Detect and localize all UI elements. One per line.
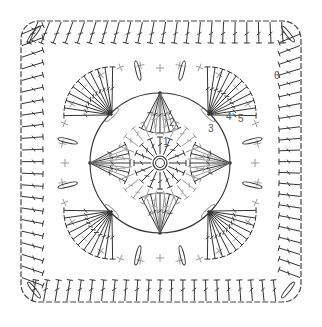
double-crochet-symbol <box>22 266 44 276</box>
double-crochet-symbol <box>50 22 61 44</box>
double-crochet-symbol <box>22 134 43 140</box>
stitch-stem <box>125 136 138 146</box>
double-crochet-symbol <box>22 35 44 46</box>
double-crochet-symbol <box>22 109 43 115</box>
stitch-top-bar <box>102 67 108 68</box>
stitch-stem <box>113 280 115 301</box>
single-crochet-symbol <box>117 64 124 71</box>
double-crochet-symbol <box>22 84 44 92</box>
stitch-top-bar <box>56 280 62 281</box>
double-crochet-symbol <box>22 159 43 165</box>
stitch-top-bar <box>90 280 96 281</box>
double-crochet-symbol <box>186 143 202 152</box>
stitch-stem <box>136 166 152 173</box>
stitch-slash <box>231 220 232 225</box>
chain-symbol <box>280 281 296 299</box>
round-label-2: 2 <box>169 117 175 128</box>
single-crochet-symbol <box>252 120 259 127</box>
stitch-stem <box>279 80 300 86</box>
stitch-top-bar <box>212 67 218 68</box>
stitch-top-bar <box>123 42 129 43</box>
double-crochet-symbol <box>146 280 152 301</box>
double-crochet-symbol <box>160 196 181 233</box>
stitch-top-bar <box>212 258 218 259</box>
stitch-top-bar <box>71 84 75 89</box>
double-crochet-symbol <box>157 172 163 189</box>
stitch-slash <box>145 176 150 177</box>
stitch-stem <box>163 171 170 187</box>
stitch-stem <box>142 93 160 128</box>
chain-symbol <box>178 60 187 80</box>
double-crochet-symbol <box>279 137 300 143</box>
stitch-top-bar <box>33 279 39 280</box>
stitch-slash <box>224 96 229 97</box>
double-crochet-symbol <box>193 142 230 163</box>
double-crochet-symbol <box>248 280 254 301</box>
stitch-stem <box>150 139 157 155</box>
double-crochet-symbol <box>111 22 119 44</box>
stitch-top-bar <box>279 126 280 132</box>
stitch-slash <box>168 213 173 214</box>
stitch-top-bar <box>81 74 86 78</box>
double-crochet-symbol <box>22 171 43 177</box>
chain-symbol <box>242 137 262 146</box>
stitch-stem <box>211 22 213 43</box>
chain-symbol <box>242 181 262 190</box>
single-crochet-symbol <box>61 120 68 127</box>
double-crochet-symbol <box>22 72 44 80</box>
stitch-stem <box>65 22 73 43</box>
chain-symbol <box>57 137 77 146</box>
stitch-stem <box>125 280 127 301</box>
stitch-stem <box>195 163 230 181</box>
chain-symbol <box>134 245 143 265</box>
single-crochet-symbol <box>61 199 68 206</box>
stitch-top-bar <box>42 97 43 103</box>
stitch-stem <box>177 128 187 141</box>
stitch-top-bar <box>43 208 44 214</box>
double-crochet-symbol <box>279 159 300 165</box>
double-crochet-symbol <box>259 280 265 301</box>
double-crochet-symbol <box>236 280 242 301</box>
stitch-stem <box>223 22 224 43</box>
double-crochet-symbol <box>278 57 300 67</box>
stitch-stem <box>206 280 207 301</box>
stitch-top-bar <box>43 121 44 127</box>
stitch-top-bar <box>234 248 239 252</box>
stitch-top-bar <box>78 280 84 281</box>
stitch-stem <box>90 145 125 163</box>
stitch-stem <box>112 211 113 259</box>
double-crochet-symbol <box>169 280 175 301</box>
chain-symbol <box>134 60 143 80</box>
stitch-top-bar <box>102 258 108 259</box>
double-crochet-symbol <box>279 169 300 175</box>
stitch-top-bar <box>71 237 75 242</box>
double-crochet-symbol <box>22 121 43 127</box>
stitch-top-bar <box>123 187 127 192</box>
stitch-stem <box>207 211 208 259</box>
stitch-stem <box>279 46 300 54</box>
stitch-slash <box>171 150 176 151</box>
double-crochet-symbol <box>22 231 44 239</box>
stitch-top-bar <box>67 280 73 281</box>
stitch-stem <box>208 210 256 211</box>
double-crochet-symbol <box>22 278 44 289</box>
stitch-stem <box>22 266 43 273</box>
stitch-stem <box>279 69 300 75</box>
stitch-top-bar <box>278 94 279 100</box>
frame-border <box>21 21 301 302</box>
double-crochet-symbol <box>139 93 160 130</box>
stitch-slash <box>226 227 227 232</box>
stitch-stem <box>133 185 143 198</box>
stitch-stem <box>239 280 240 301</box>
double-crochet-symbol <box>101 280 107 301</box>
double-crochet-symbol <box>22 60 44 69</box>
round-label-6: 6 <box>274 70 280 81</box>
stitch-top-bar <box>259 280 265 281</box>
stitch-top-bar <box>184 126 189 130</box>
stitch-stem <box>22 50 43 57</box>
double-crochet-symbol <box>278 34 300 46</box>
stitch-top-bar <box>147 42 153 43</box>
stitch-top-bar <box>245 237 249 242</box>
crochet-chart: 1 2 3 4 5 6 <box>0 0 322 327</box>
double-crochet-symbol <box>203 280 209 301</box>
